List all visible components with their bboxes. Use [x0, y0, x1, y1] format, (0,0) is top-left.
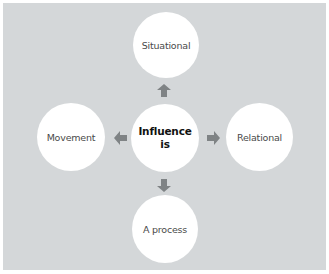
- node-label: Relational: [237, 132, 282, 143]
- node-center: Influence is: [131, 104, 199, 172]
- arrow-down-icon: [157, 179, 171, 192]
- center-label: Influence is: [138, 125, 191, 151]
- diagram-panel: Situational Movement Influence is Relati…: [3, 3, 326, 270]
- center-label-line1: Influence: [138, 125, 191, 138]
- arrow-right-icon: [207, 131, 220, 145]
- node-label: A process: [143, 224, 187, 235]
- node-situational: Situational: [133, 12, 199, 78]
- arrow-up-icon: [157, 84, 171, 97]
- arrow-left-icon: [114, 131, 127, 145]
- node-a-process: A process: [132, 195, 198, 263]
- node-label: Situational: [142, 40, 191, 51]
- node-label: Movement: [47, 132, 96, 143]
- node-relational: Relational: [226, 103, 293, 171]
- node-movement: Movement: [37, 103, 105, 171]
- center-label-line2: is: [138, 138, 191, 151]
